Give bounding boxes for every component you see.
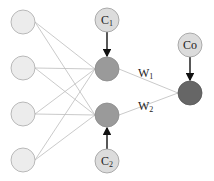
weight-label-w2: W2 xyxy=(138,99,153,114)
input-node xyxy=(11,56,35,80)
edge-in2-h1 xyxy=(35,68,95,69)
edge-in3-h1 xyxy=(35,69,95,114)
edge-in4-h2 xyxy=(35,115,95,160)
hidden-node xyxy=(95,57,119,81)
input-node xyxy=(11,10,35,34)
context-label-co: Co xyxy=(183,38,197,52)
hidden-node xyxy=(95,103,119,127)
output-node xyxy=(178,81,202,105)
input-node xyxy=(11,102,35,126)
weight-label-w1: W1 xyxy=(138,66,153,81)
edge-in1-h1 xyxy=(35,22,95,69)
context-arrows xyxy=(107,32,190,149)
neural-network-diagram: C1C2CoW1W2 xyxy=(0,0,214,181)
input-node xyxy=(11,148,35,172)
